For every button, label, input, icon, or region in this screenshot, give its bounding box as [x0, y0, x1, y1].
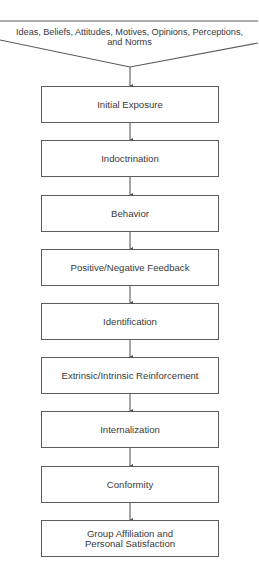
- step-label-line-2: Personal Satisfaction: [85, 539, 175, 549]
- step-label: Identification: [103, 317, 157, 327]
- step-reinforcement: Extrinsic/Intrinsic Reinforcement: [41, 357, 219, 394]
- step-label: Initial Exposure: [97, 100, 163, 110]
- step-label: Extrinsic/Intrinsic Reinforcement: [61, 371, 198, 381]
- step-internalization: Internalization: [41, 411, 219, 448]
- source-line-1: Ideas, Beliefs, Attitudes, Motives, Opin…: [0, 27, 259, 37]
- flow-diagram: Ideas, Beliefs, Attitudes, Motives, Opin…: [0, 0, 259, 580]
- step-identification: Identification: [41, 303, 219, 340]
- step-feedback: Positive/Negative Feedback: [41, 249, 219, 286]
- source-line-2: and Norms: [0, 37, 259, 47]
- step-label: Conformity: [107, 480, 153, 490]
- step-initial-exposure: Initial Exposure: [41, 86, 219, 123]
- step-indoctrination: Indoctrination: [41, 140, 219, 177]
- step-label: Behavior: [111, 209, 149, 219]
- step-conformity: Conformity: [41, 466, 219, 503]
- step-label: Internalization: [100, 425, 160, 435]
- step-label-line-1: Group Affiliation and: [87, 529, 173, 539]
- step-behavior: Behavior: [41, 195, 219, 232]
- step-label: Indoctrination: [101, 154, 159, 164]
- source-funnel-label: Ideas, Beliefs, Attitudes, Motives, Opin…: [0, 27, 259, 47]
- step-label: Positive/Negative Feedback: [71, 263, 190, 273]
- step-group-affiliation: Group Affiliation and Personal Satisfact…: [41, 520, 219, 557]
